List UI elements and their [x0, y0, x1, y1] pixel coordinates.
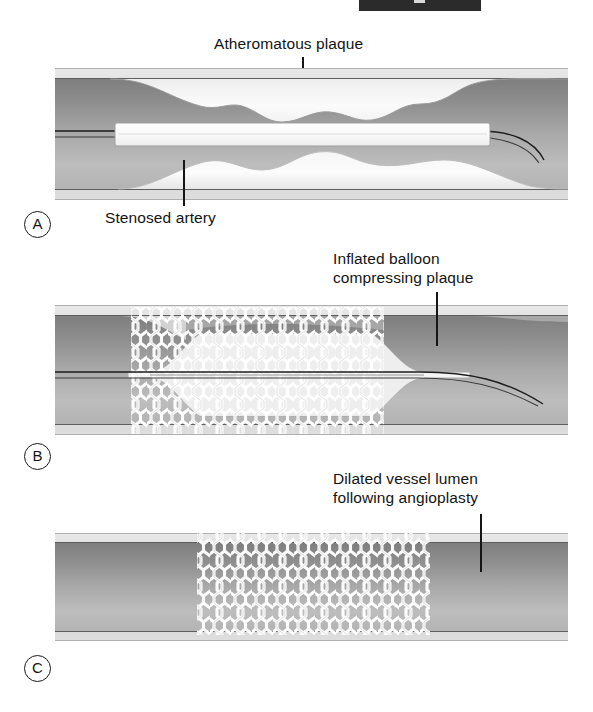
leader-stenosed-artery	[183, 160, 185, 206]
panel-letter-c: C	[24, 655, 51, 682]
panel-letter-a: A	[24, 211, 51, 238]
label-atheromatous-plaque: Atheromatous plaque	[214, 34, 444, 53]
leader-dilated-vessel-lumen	[480, 514, 482, 572]
panel-letter-b: B	[24, 443, 51, 470]
label-stenosed-artery: Stenosed artery	[105, 208, 325, 227]
leader-atheromatous-plaque	[302, 57, 304, 98]
label-inflated-balloon: Inflated balloon compressing plaque	[333, 249, 583, 287]
cropped-header-strip	[359, 0, 481, 11]
label-dilated-vessel-lumen: Dilated vessel lumen following angioplas…	[333, 469, 585, 507]
panel-a-artery	[0, 0, 593, 712]
panel-a-vessel	[55, 68, 568, 200]
panel-b-vessel	[55, 305, 568, 435]
panel-c-vessel	[55, 533, 568, 641]
angioplasty-figure: Atheromatous plaque	[0, 0, 593, 712]
header-strip-gap	[414, 0, 425, 3]
leader-inflated-balloon	[436, 292, 438, 346]
